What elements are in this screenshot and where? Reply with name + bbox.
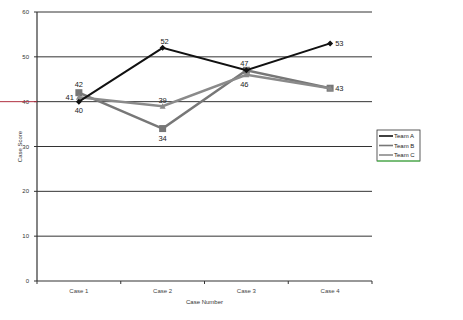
x-tick-label: Case 1: [69, 288, 89, 294]
data-label: 39: [158, 96, 166, 105]
y-axis-title: Case Score: [17, 130, 23, 162]
data-label: 41: [66, 93, 74, 102]
x-tick-label: Case 4: [321, 288, 341, 294]
y-tick-label: 0: [26, 278, 30, 284]
svg-text:Team C: Team C: [394, 152, 415, 158]
svg-text:Team B: Team B: [394, 143, 414, 149]
data-point: [327, 40, 333, 46]
data-label: 52: [160, 37, 168, 46]
y-tick-label: 30: [22, 144, 29, 150]
series-team-c: [76, 72, 333, 109]
x-axis-title: Case Number: [186, 299, 223, 305]
data-label: 34: [158, 134, 166, 143]
data-label: 42: [75, 80, 83, 89]
chart-canvas: 0102030405060Case 1Case 2Case 3Case 4Cas…: [0, 0, 463, 320]
data-label: 53: [335, 39, 343, 48]
y-tick-label: 20: [22, 188, 29, 194]
y-tick-label: 60: [22, 9, 29, 15]
data-label: 46: [240, 80, 248, 89]
legend: Team ATeam BTeam C: [377, 130, 420, 161]
series-team-a: [76, 40, 333, 104]
data-point: [159, 125, 166, 132]
series-team-b: [75, 67, 333, 132]
line-chart: 0102030405060Case 1Case 2Case 3Case 4Cas…: [0, 0, 463, 320]
gridlines: 0102030405060: [22, 9, 372, 284]
y-tick-label: 50: [22, 54, 29, 60]
x-tick-label: Case 3: [237, 288, 257, 294]
data-label: 47: [240, 59, 248, 68]
data-label: 43: [335, 84, 343, 93]
svg-text:Team A: Team A: [394, 133, 414, 139]
data-label: 40: [75, 106, 83, 115]
x-tick-label: Case 2: [153, 288, 173, 294]
y-tick-label: 10: [22, 233, 29, 239]
